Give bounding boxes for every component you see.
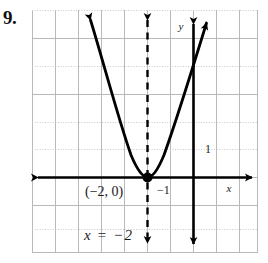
- tick-label-negative-one: −1: [157, 183, 170, 197]
- coordinate-graph: x y 1 −1 (−2, 0) x = −2: [0, 0, 268, 263]
- x-axis-label: x: [226, 182, 232, 194]
- axis-of-symmetry-equation-label: x = −2: [83, 227, 133, 243]
- tick-label-positive-one: 1: [205, 142, 211, 156]
- vertex-point-marker: [143, 173, 153, 183]
- graph-background: [32, 10, 258, 253]
- figure-container: 9.: [0, 0, 268, 263]
- vertex-coordinate-label: (−2, 0): [85, 184, 124, 200]
- y-axis-label: y: [178, 20, 184, 32]
